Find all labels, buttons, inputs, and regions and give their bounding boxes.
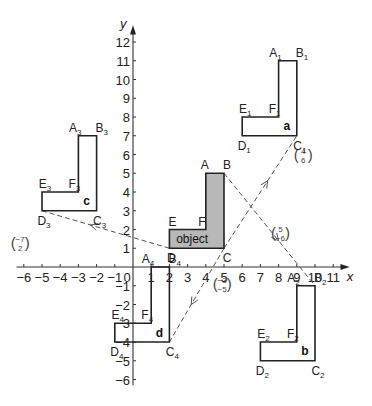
x-tick-label: 8 bbox=[275, 270, 282, 285]
vertex-label-e3: E3 bbox=[39, 177, 52, 193]
paren-right: ) bbox=[308, 146, 313, 163]
y-tick-label: 4 bbox=[123, 185, 130, 200]
y-tick-label: −6 bbox=[115, 373, 130, 388]
vector-x-component: −7 bbox=[16, 235, 26, 244]
image-name-a: a bbox=[283, 119, 290, 133]
vector-y-component: 6 bbox=[301, 156, 306, 165]
column-vector-label: ()−3−5 bbox=[213, 275, 232, 294]
x-tick-label: −6 bbox=[16, 270, 31, 285]
y-tick-label: 8 bbox=[123, 110, 130, 125]
vector-y-component: −5 bbox=[218, 285, 228, 294]
labels: objectABCDEFaA1B1C1D1E1F1bA2B2C2D2E2F2cA… bbox=[37, 46, 327, 380]
vertex-label-a3: A3 bbox=[69, 121, 82, 137]
y-tick-label: 6 bbox=[123, 148, 130, 163]
y-tick-label: 3 bbox=[123, 204, 130, 219]
image-name-b: b bbox=[301, 344, 308, 358]
vertex-label-b1: B1 bbox=[296, 46, 309, 62]
vertex-label-b4: B4 bbox=[168, 252, 181, 268]
column-vector-label: ()−72 bbox=[11, 234, 30, 253]
vertex-label-d2: D2 bbox=[256, 364, 270, 380]
vertex-label-a1: A1 bbox=[269, 46, 282, 62]
y-axis-label: y bbox=[119, 16, 128, 31]
vertex-label-b2: B2 bbox=[314, 271, 327, 287]
vertex-label-c1: C1 bbox=[293, 139, 307, 155]
vertex-label-c3: C3 bbox=[93, 214, 107, 230]
y-tick-label: 9 bbox=[123, 91, 130, 106]
vertex-label-d1: D1 bbox=[238, 139, 252, 155]
x-tick-label: −4 bbox=[53, 270, 68, 285]
y-tick-label: 10 bbox=[116, 73, 130, 88]
y-tick-label: 12 bbox=[116, 35, 130, 50]
x-tick-label: 6 bbox=[239, 270, 246, 285]
translation-vectors: ()46()5−6()−72()−3−5 bbox=[11, 136, 315, 342]
x-tick-label: −5 bbox=[35, 270, 50, 285]
y-tick-label: 1 bbox=[123, 241, 130, 256]
object-label: object bbox=[176, 232, 209, 246]
y-tick-label: −1 bbox=[115, 279, 130, 294]
vertex-label-c4: C4 bbox=[166, 345, 180, 361]
y-tick-label: 5 bbox=[123, 166, 130, 181]
translation-diagram: xy−6−5−4−3−2−112345678910110121110987654… bbox=[0, 0, 372, 406]
x-tick-label: −3 bbox=[71, 270, 86, 285]
x-axis-label: x bbox=[346, 269, 354, 284]
vertex-label-a4: A4 bbox=[142, 252, 155, 268]
vector-y-component: 2 bbox=[18, 244, 23, 253]
y-axis-arrow-icon bbox=[130, 25, 136, 34]
image-name-c: c bbox=[83, 194, 90, 208]
vertex-label-a: A bbox=[201, 158, 209, 172]
vertex-label-c2: C2 bbox=[311, 364, 325, 380]
vertex-label-b: B bbox=[223, 158, 231, 172]
y-tick-label: 11 bbox=[117, 54, 131, 69]
vector-arrowhead-icon bbox=[191, 297, 198, 305]
x-tick-label: −2 bbox=[89, 270, 104, 285]
vertex-label-f: F bbox=[198, 215, 205, 229]
x-tick-label: 7 bbox=[257, 270, 264, 285]
paren-right: ) bbox=[227, 275, 232, 292]
x-tick-label: 4 bbox=[202, 270, 209, 285]
column-vector-label: ()5−6 bbox=[271, 224, 290, 243]
x-tick-label: 11 bbox=[326, 270, 340, 285]
axes: xy−6−5−4−3−2−112345678910110121110987654… bbox=[16, 16, 353, 388]
translation-vector-b-b2 bbox=[224, 173, 315, 286]
paren-right: ) bbox=[25, 234, 30, 251]
vertex-label-d3: D3 bbox=[37, 214, 51, 230]
vector-x-component: 5 bbox=[278, 225, 283, 234]
vector-y-component: −6 bbox=[276, 234, 286, 243]
vector-x-component: −3 bbox=[218, 276, 228, 285]
vertex-label-e1: E1 bbox=[239, 102, 252, 118]
vertex-label-e2: E2 bbox=[257, 327, 270, 343]
vertex-label-b3: B3 bbox=[96, 121, 109, 137]
vector-arrowhead-icon bbox=[261, 181, 268, 189]
vertex-label-e: E bbox=[168, 215, 176, 229]
vertex-label-c: C bbox=[223, 251, 232, 265]
y-tick-label: 7 bbox=[123, 129, 130, 144]
image-name-d: d bbox=[156, 326, 163, 340]
paren-right: ) bbox=[285, 224, 290, 241]
x-tick-label: 3 bbox=[184, 270, 191, 285]
